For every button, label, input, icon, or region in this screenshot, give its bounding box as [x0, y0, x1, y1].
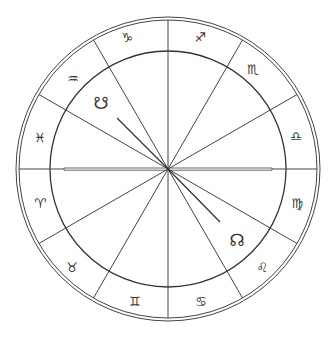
astrology-chart-wheel: [0, 0, 333, 341]
gemini-icon: ♊: [129, 295, 141, 308]
aquarius-icon: ♒: [67, 72, 79, 85]
scorpio-icon: ♏: [247, 63, 259, 76]
libra-icon: ♎: [290, 130, 302, 143]
sagittarius-icon: ♐: [194, 31, 206, 44]
cancer-icon: ♋: [195, 295, 207, 308]
pisces-icon: ♓: [34, 131, 46, 144]
south-node-icon: ☋: [93, 95, 108, 112]
north-node-icon: ☊: [229, 232, 244, 249]
aries-icon: ♈: [34, 197, 46, 210]
taurus-icon: ♉: [66, 261, 78, 274]
capricorn-icon: ♑: [121, 31, 133, 44]
virgo-icon: ♍: [291, 197, 303, 210]
leo-icon: ♌: [256, 261, 268, 274]
